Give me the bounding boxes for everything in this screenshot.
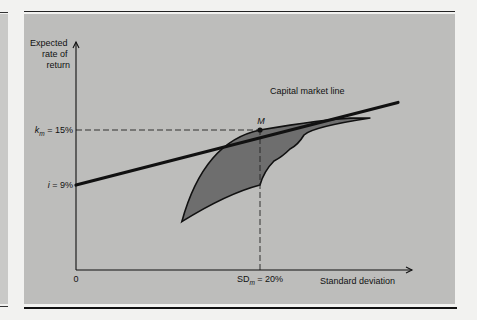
y-axis-label: Expected rate of return bbox=[30, 38, 70, 70]
y-tick-label-km: km = 15% bbox=[35, 125, 73, 137]
market-portfolio-point bbox=[257, 127, 262, 132]
y-tick-label-i: i = 9% bbox=[48, 180, 73, 190]
x-origin-label: 0 bbox=[73, 274, 78, 284]
capital-market-line-chart: M Expected rate of return km = 15% i = 9… bbox=[0, 0, 477, 320]
market-portfolio-label: M bbox=[257, 116, 265, 126]
x-tick-label-sdm: SDm = 20% bbox=[237, 274, 283, 286]
x-axis-label: Standard deviation bbox=[320, 276, 395, 286]
capital-market-line-label: Capital market line bbox=[270, 86, 345, 96]
